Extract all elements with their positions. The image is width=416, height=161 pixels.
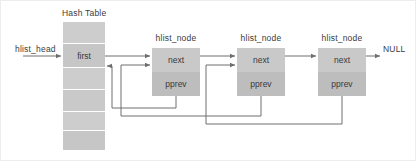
hash-first-label: first xyxy=(63,44,105,67)
node-3-pprev-label: pprev xyxy=(318,72,366,96)
hash-cell-0 xyxy=(63,22,105,43)
hash-table-title: Hash Table xyxy=(62,8,106,18)
hash-cell-3 xyxy=(63,90,105,111)
node-2-title: hlist_node xyxy=(237,33,285,43)
hlist-diagram: Hash Table hlist_head NULL hlist_node hl… xyxy=(0,0,416,161)
node-2-next-label: next xyxy=(237,48,285,72)
hash-cell-5 xyxy=(63,131,105,150)
node-1-next-label: next xyxy=(152,48,200,72)
node-1-title: hlist_node xyxy=(152,33,200,43)
hash-cell-4 xyxy=(63,112,105,130)
null-label: NULL xyxy=(383,44,406,54)
node-3-title: hlist_node xyxy=(318,33,366,43)
node-2-pprev-label: pprev xyxy=(237,72,285,96)
hash-table-column xyxy=(63,22,105,150)
node-3-next-label: next xyxy=(318,48,366,72)
hash-cell-2 xyxy=(63,68,105,89)
node-1-pprev-label: pprev xyxy=(152,72,200,96)
hlist-head-label: hlist_head xyxy=(15,44,56,54)
